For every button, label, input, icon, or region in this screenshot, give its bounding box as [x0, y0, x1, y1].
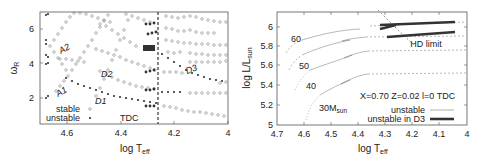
- omega-teff-plot: 4.6 4.4 4.2 4 2 4 6 log Teff ωR: [0, 0, 240, 160]
- x-tick-label: 4.6: [61, 128, 74, 138]
- legend-stable-marker: [89, 108, 92, 111]
- y-axis-label: log L/Lsun: [241, 47, 253, 88]
- x-tick-label: 4.6: [298, 129, 311, 139]
- legend-unstable-marker: [89, 117, 91, 119]
- x-tick-label: 4.4: [115, 128, 128, 138]
- y-tick-label: 5.2: [260, 100, 273, 110]
- x-tick-label: 4: [464, 129, 469, 139]
- mass-label-40: 40: [306, 81, 316, 91]
- unstable-points: [45, 13, 223, 108]
- x-axis-label: log Teff: [358, 143, 388, 155]
- x-axis-label: log Teff: [120, 143, 150, 155]
- x-tick-label: 4.2: [168, 128, 181, 138]
- left-chart-panel: 4.6 4.4 4.2 4 2 4 6 log Teff ωR: [0, 0, 240, 160]
- y-axis-label: ωR: [8, 62, 20, 75]
- hd-limit-label: HD limit: [410, 39, 442, 49]
- legend-unstable-label: unstable: [46, 113, 80, 123]
- y-tick-label: 5.6: [260, 60, 273, 70]
- x-tick-label: 4.7: [271, 129, 284, 139]
- x-tick-label: 4.4: [352, 129, 365, 139]
- mass-label-30: 30Msun: [319, 103, 347, 114]
- y-tick-label: 5.8: [260, 41, 273, 51]
- y-tick-label: 5: [268, 120, 273, 130]
- legend-unstable-d3-label: unstable in D3: [367, 114, 425, 124]
- y-tick-label: 4: [29, 59, 34, 69]
- y-tick-label: 6: [29, 24, 34, 34]
- x-tick-label: 4.1: [433, 129, 446, 139]
- x-tick-label: 4.5: [325, 129, 338, 139]
- label-d2: D2: [101, 69, 113, 79]
- parameters-label: X=0.70 Z=0.02 l=0 TDC: [360, 91, 456, 101]
- label-d1: D1: [95, 96, 107, 106]
- unstable-cluster: [143, 45, 155, 51]
- left-legend: stable unstable TDC: [46, 104, 139, 123]
- stable-points: [49, 12, 228, 118]
- legend-tdc-label: TDC: [120, 113, 139, 123]
- x-tick-label: 4.3: [379, 129, 392, 139]
- label-d3: D3: [184, 63, 198, 76]
- right-chart-panel: 4.7 4.6 4.5 4.4 4.3 4.2 4.1 4 5 5.2 5.4 …: [240, 0, 480, 160]
- y-tick-label: 2: [29, 93, 34, 103]
- evolution-tracks: [286, 22, 466, 120]
- y-tick-label: 6: [268, 22, 273, 32]
- hr-diagram-plot: 4.7 4.6 4.5 4.4 4.3 4.2 4.1 4 5 5.2 5.4 …: [240, 0, 480, 160]
- y-tick-label: 5.4: [260, 80, 273, 90]
- x-tick-label: 4.2: [406, 129, 419, 139]
- label-a1: A1: [53, 85, 68, 100]
- unstable-in-d3-lines: [380, 22, 455, 37]
- label-a2: A2: [56, 42, 71, 57]
- x-tick-label: 4: [225, 128, 230, 138]
- right-legend: unstable unstable in D3: [367, 105, 454, 124]
- mass-label-50: 50: [299, 61, 309, 71]
- mass-label-60: 60: [291, 34, 301, 44]
